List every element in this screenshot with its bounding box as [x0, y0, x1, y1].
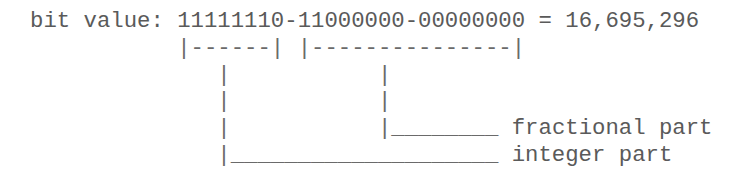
byte-2-bits: 11000000 — [298, 8, 405, 34]
bit-value-label: bit value: — [30, 8, 164, 34]
fractional-part-label: fractional part — [512, 115, 713, 141]
connector-line-1: | | — [30, 62, 712, 89]
byte-1-bits: 11111110 — [177, 8, 284, 34]
fractional-connector-pipe: | — [378, 88, 391, 114]
bit-value-line: bit value: 11111110-11000000-00000000 = … — [30, 8, 712, 35]
integer-connector-pipe: | — [217, 115, 230, 141]
bracket-line: |------| |---------------| — [30, 35, 712, 62]
integer-connector-pipe: | — [217, 88, 230, 114]
fractional-connector-pipe: | — [378, 62, 391, 88]
byte-separator: - — [284, 8, 297, 34]
bit-layout-diagram: bit value: 11111110-11000000-00000000 = … — [30, 8, 712, 169]
integer-part-bracket: |------| — [177, 35, 284, 61]
byte-separator: - — [405, 8, 418, 34]
connector-line-2: | | — [30, 88, 712, 115]
fractional-part-bracket: |---------------| — [298, 35, 525, 61]
integer-part-label: integer part — [512, 142, 673, 168]
fractional-leader-line: |________ — [378, 115, 498, 141]
integer-connector-pipe: | — [217, 62, 230, 88]
equals-sign: = — [539, 8, 552, 34]
integer-annotation-line: |____________________ integer part — [30, 142, 712, 169]
byte-3-bits: 00000000 — [418, 8, 525, 34]
fractional-annotation-line: | |________ fractional part — [30, 115, 712, 142]
integer-leader-line: |____________________ — [217, 142, 498, 168]
decimal-value: 16,695,296 — [565, 8, 699, 34]
